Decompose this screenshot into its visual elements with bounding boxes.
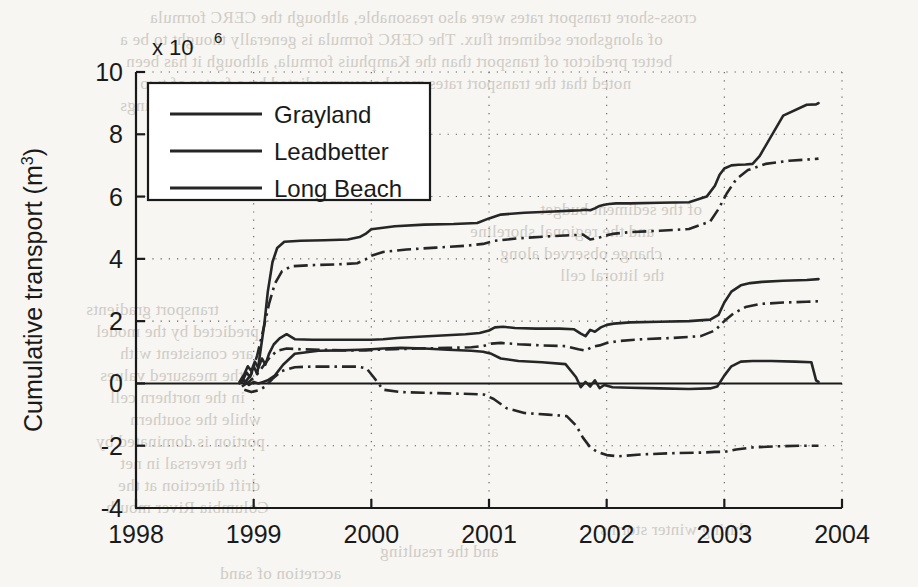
cumulative-transport-chart: -4-20246810 1998199920002001200220032004… — [0, 0, 918, 587]
x-tick-label-4: 2002 — [579, 520, 635, 548]
x-tick-label-1: 1999 — [226, 520, 282, 548]
y-tick-label-4: 4 — [109, 245, 123, 273]
x-tick-label-2: 2000 — [344, 520, 400, 548]
legend-label-2: Long Beach — [274, 175, 402, 202]
chart-figure: -4-20246810 1998199920002001200220032004… — [0, 0, 918, 587]
x-tick-label-6: 2004 — [814, 520, 870, 548]
y-tick-label-6: 8 — [109, 120, 123, 148]
legend-label-1: Leadbetter — [274, 138, 389, 165]
y-tick-label-0: -4 — [101, 494, 123, 522]
series-line-3 — [242, 301, 819, 386]
y-tick-label-3: 2 — [109, 307, 123, 335]
y-axis-exponent-label: x 10 — [152, 35, 194, 60]
y-axis-tick-labels: -4-20246810 — [95, 58, 123, 522]
x-tick-label-3: 2001 — [461, 520, 517, 548]
chart-legend[interactable]: GraylandLeadbetterLong Beach — [148, 83, 430, 202]
legend-label-0: Grayland — [274, 101, 371, 128]
x-tick-label-5: 2003 — [697, 520, 753, 548]
x-axis-tick-labels: 1998199920002001200220032004 — [108, 520, 870, 548]
y-tick-label-1: -2 — [101, 432, 123, 460]
x-tick-label-0: 1998 — [108, 520, 164, 548]
y-tick-label-2: 0 — [109, 369, 123, 397]
y-tick-label-5: 6 — [109, 183, 123, 211]
y-axis-title-group: Cumulative transport (m3) — [19, 148, 47, 432]
y-axis-title: Cumulative transport (m3) — [19, 148, 47, 432]
y-axis-exponent-superscript: 6 — [214, 29, 222, 46]
y-tick-label-7: 10 — [95, 58, 123, 86]
series-line-5 — [244, 367, 818, 457]
